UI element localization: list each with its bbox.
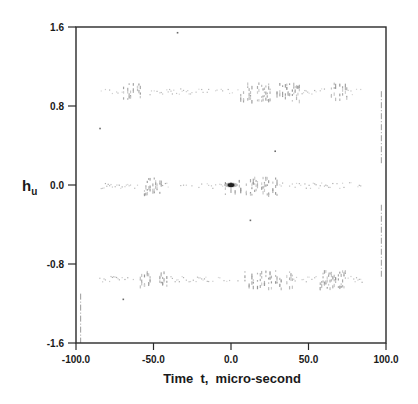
x-axis-title: Time t, micro-second — [163, 371, 301, 386]
chart-canvas: -100.0-50.00.050.0100.0 1.60.80.0-0.8-1.… — [0, 0, 418, 404]
x-axis-ticks: -100.0-50.00.050.0100.0 — [62, 343, 399, 365]
x-tick-label: 0.0 — [224, 354, 238, 365]
x-tick-label: -100.0 — [62, 354, 91, 365]
y-axis-ticks: 1.60.80.0-0.8-1.6 — [47, 22, 76, 349]
x-tick-label: 100.0 — [373, 354, 398, 365]
x-tick-label: 50.0 — [299, 354, 319, 365]
y-axis-title: hu — [22, 177, 37, 197]
scatter-points — [81, 32, 382, 343]
y-tick-label: 1.6 — [50, 22, 64, 33]
y-tick-label: -0.8 — [47, 259, 65, 270]
x-tick-label: -50.0 — [142, 354, 165, 365]
y-tick-label: -1.6 — [47, 338, 65, 349]
y-tick-label: 0.8 — [50, 101, 64, 112]
y-tick-label: 0.0 — [50, 180, 64, 191]
